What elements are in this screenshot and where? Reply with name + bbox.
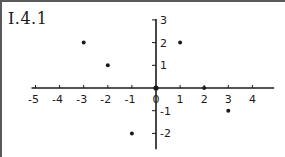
x-tick-label: 3	[225, 93, 232, 106]
x-tick-label: -4	[52, 93, 63, 106]
y-tick-label: 2	[160, 37, 167, 50]
x-tick-label: -3	[76, 93, 87, 106]
data-point	[226, 109, 230, 113]
x-tick-label: -2	[100, 93, 111, 106]
x-tick-label: -5	[28, 93, 39, 106]
y-tick-label: -2	[160, 127, 171, 140]
x-tick-label: 2	[201, 93, 208, 106]
data-point	[130, 131, 134, 135]
y-tick-label: 1	[160, 59, 167, 72]
data-point	[82, 41, 86, 45]
data-point	[153, 85, 158, 90]
data-point	[178, 41, 182, 45]
scatter-plot: -5-4-3-2-101234321-1-2	[0, 0, 285, 157]
y-tick-label: -1	[160, 105, 171, 118]
data-point	[202, 86, 206, 90]
x-tick-label: 4	[249, 93, 256, 106]
y-tick-label: 3	[160, 14, 167, 27]
data-point	[106, 63, 110, 67]
x-tick-label: -1	[124, 93, 135, 106]
axes	[32, 19, 275, 149]
x-tick-label: 1	[177, 93, 184, 106]
x-tick-label: 0	[153, 93, 160, 106]
ticks: -5-4-3-2-101234321-1-2	[28, 14, 256, 140]
